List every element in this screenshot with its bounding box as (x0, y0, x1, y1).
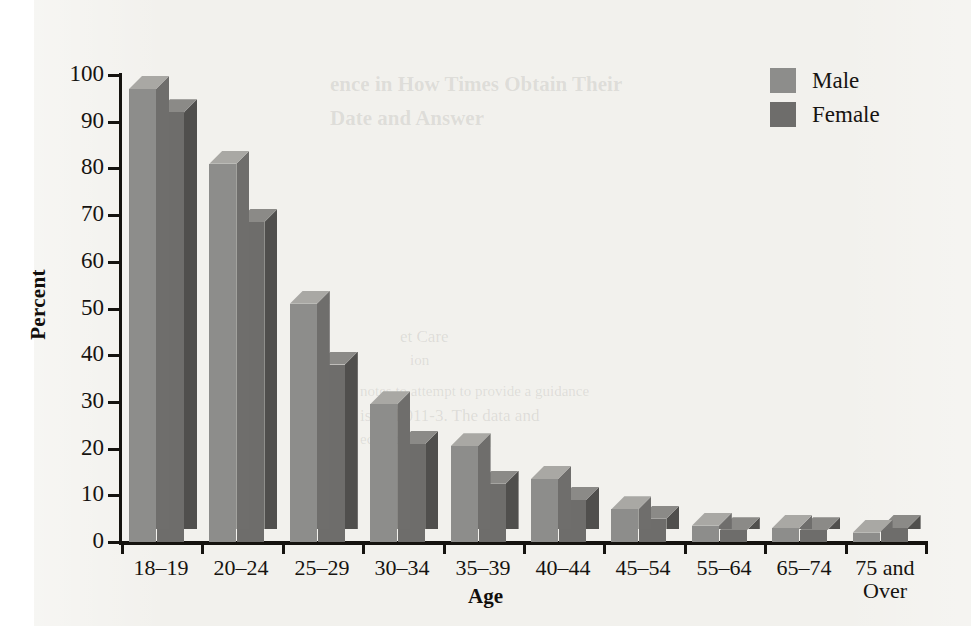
chart-page: ence in How Times Obtain Their Date and … (0, 0, 971, 641)
y-tick-40 (108, 354, 119, 357)
x-tick-label-line: 40–44 (523, 556, 603, 579)
bar-male-1 (209, 164, 236, 542)
x-axis-title: Age (0, 584, 971, 609)
y-tick-label-10: 10 (46, 482, 104, 505)
x-tick-5 (523, 541, 526, 554)
x-tick-0 (121, 541, 124, 554)
x-tick-label-3: 30–34 (362, 556, 442, 579)
y-tick-label-50: 50 (46, 296, 104, 319)
y-axis-line (119, 73, 122, 544)
legend-swatch-female (770, 102, 796, 127)
x-tick-label-line: 25–29 (282, 556, 362, 579)
y-tick-label-80: 80 (46, 155, 104, 178)
y-tick-label-0: 0 (46, 529, 104, 552)
x-tick-2 (282, 541, 285, 554)
legend-item-male: Male (770, 63, 880, 97)
bar-female-0-side (184, 99, 197, 529)
y-tick-label-30: 30 (46, 389, 104, 412)
x-tick-label-line: 35–39 (443, 556, 523, 579)
bar-male-7 (692, 526, 719, 542)
bar-male-4-side (478, 433, 491, 529)
x-tick-label-line: 30–34 (362, 556, 442, 579)
x-tick-9 (845, 541, 848, 554)
bar-male-8 (772, 528, 799, 542)
x-tick-4 (443, 541, 446, 554)
x-tick-8 (764, 541, 767, 554)
bar-female-8 (800, 530, 827, 542)
x-tick-label-7: 55–64 (684, 556, 764, 579)
legend-label-female: Female (812, 103, 880, 126)
x-tick-label-9: 75 andOver (845, 556, 925, 603)
x-tick-label-line: 75 and (845, 556, 925, 579)
legend-label-male: Male (812, 69, 859, 92)
legend-item-female: Female (770, 97, 880, 131)
x-tick-label-2: 25–29 (282, 556, 362, 579)
bar-male-3-side (397, 391, 410, 529)
x-tick-3 (362, 541, 365, 554)
x-tick-label-8: 65–74 (764, 556, 844, 579)
bar-male-4 (451, 446, 478, 542)
x-tick-6 (603, 541, 606, 554)
y-tick-label-90: 90 (46, 109, 104, 132)
y-tick-10 (108, 494, 119, 497)
x-tick-1 (201, 541, 204, 554)
x-tick-7 (684, 541, 687, 554)
y-tick-80 (108, 167, 119, 170)
bar-male-9 (853, 533, 880, 542)
x-tick-label-1: 20–24 (201, 556, 281, 579)
y-tick-20 (108, 448, 119, 451)
x-tick-label-5: 40–44 (523, 556, 603, 579)
bar-female-1-side (264, 209, 277, 529)
bar-female-2-side (345, 352, 358, 529)
x-tick-label-line: 20–24 (201, 556, 281, 579)
y-tick-label-70: 70 (46, 202, 104, 225)
x-tick-label-4: 35–39 (443, 556, 523, 579)
x-tick-label-line: 18–19 (121, 556, 201, 579)
x-tick-end (925, 541, 928, 554)
y-tick-100 (108, 74, 119, 77)
y-tick-label-60: 60 (46, 249, 104, 272)
bar-male-0 (129, 89, 156, 542)
x-tick-label-0: 18–19 (121, 556, 201, 579)
y-tick-label-40: 40 (46, 342, 104, 365)
bar-male-3 (370, 404, 397, 542)
bar-male-6 (611, 509, 638, 542)
bar-female-7 (720, 530, 747, 542)
bar-chart: Percent Age 1009080706050403020100 18–19… (0, 0, 971, 641)
y-tick-30 (108, 401, 119, 404)
y-tick-0 (108, 541, 119, 544)
x-tick-label-line: 45–54 (603, 556, 683, 579)
bar-female-3-side (425, 431, 438, 529)
legend-swatch-male (770, 68, 796, 93)
x-tick-label-line: 55–64 (684, 556, 764, 579)
y-tick-50 (108, 308, 119, 311)
y-tick-70 (108, 214, 119, 217)
bar-female-9 (881, 528, 908, 542)
bar-male-5 (531, 479, 558, 542)
bar-male-0-side (156, 76, 169, 529)
bar-male-2-side (317, 291, 330, 529)
y-tick-60 (108, 261, 119, 264)
bar-male-2 (290, 304, 317, 542)
y-tick-90 (108, 121, 119, 124)
x-tick-label-line: 65–74 (764, 556, 844, 579)
bar-male-1-side (236, 151, 249, 529)
y-tick-label-20: 20 (46, 436, 104, 459)
x-tick-label-6: 45–54 (603, 556, 683, 579)
chart-legend: Male Female (770, 63, 880, 131)
y-tick-label-100: 100 (46, 62, 104, 85)
x-tick-label-line: Over (845, 579, 925, 602)
